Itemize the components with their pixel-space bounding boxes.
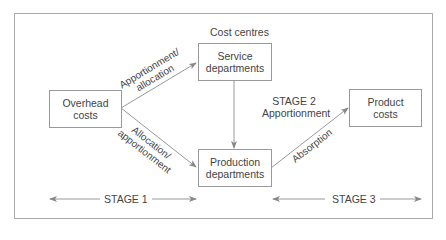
production-departments-node: Production departments bbox=[198, 149, 272, 187]
production-line2: departments bbox=[206, 168, 264, 180]
overhead-line2: costs bbox=[62, 109, 108, 121]
product-line2: costs bbox=[367, 108, 403, 120]
stage1-label: STAGE 1 bbox=[100, 193, 152, 205]
service-departments-node: Service departments bbox=[198, 43, 272, 81]
product-costs-node: Product costs bbox=[349, 89, 422, 127]
stage3-label: STAGE 3 bbox=[328, 193, 380, 205]
stage2-label: STAGE 2 Apportionment bbox=[262, 95, 326, 119]
stage2-subtitle: Apportionment bbox=[262, 107, 326, 119]
overhead-costs-node: Overhead costs bbox=[49, 90, 122, 128]
product-line1: Product bbox=[367, 96, 403, 108]
production-line1: Production bbox=[206, 156, 264, 168]
service-line1: Service bbox=[206, 50, 264, 62]
cost-centres-label: Cost centres bbox=[210, 26, 269, 38]
stage2-title: STAGE 2 bbox=[262, 95, 326, 107]
service-line2: departments bbox=[206, 62, 264, 74]
overhead-line1: Overhead bbox=[62, 97, 108, 109]
